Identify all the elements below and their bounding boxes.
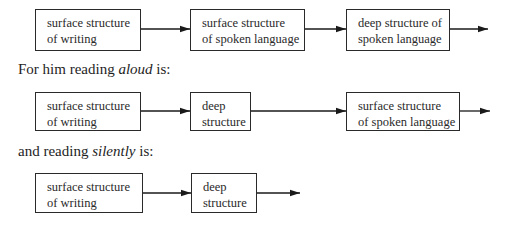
- box-line: deep structure of: [358, 15, 449, 31]
- box-surface-structure-writing: surface structure of writing: [35, 9, 141, 51]
- caption-text: is:: [135, 143, 153, 159]
- box-surface-structure-writing: surface structure of writing: [35, 92, 141, 131]
- box-line: surface structure: [47, 15, 140, 31]
- box-line: of writing: [47, 195, 142, 211]
- box-line: deep: [202, 98, 250, 114]
- box-surface-structure-writing: surface structure of writing: [35, 173, 143, 213]
- box-line: surface structure: [47, 179, 142, 195]
- box-surface-structure-spoken: surface structure of spoken language: [346, 92, 460, 131]
- box-line: deep: [203, 179, 256, 195]
- caption-emphasis: aloud: [118, 61, 152, 77]
- box-line: surface structure: [358, 98, 459, 114]
- box-deep-structure: deep structure: [191, 173, 257, 213]
- box-deep-structure: deep structure: [190, 92, 251, 131]
- box-line: of writing: [47, 31, 140, 47]
- caption-text: and reading: [18, 143, 92, 159]
- box-line: structure: [202, 114, 250, 130]
- caption-text: For him reading: [18, 61, 118, 77]
- box-line: surface structure: [47, 98, 140, 114]
- box-line: spoken language: [358, 31, 449, 47]
- caption-reading-aloud: For him reading aloud is:: [18, 61, 171, 78]
- box-line: of spoken language: [358, 114, 459, 130]
- box-line: of spoken language: [202, 31, 304, 47]
- box-line: surface structure: [202, 15, 304, 31]
- box-deep-structure-spoken: deep structure of spoken language: [346, 9, 450, 51]
- caption-reading-silently: and reading silently is:: [18, 143, 153, 160]
- box-line: structure: [203, 195, 256, 211]
- caption-emphasis: silently: [92, 143, 135, 159]
- caption-text: is:: [153, 61, 171, 77]
- box-line: of writing: [47, 114, 140, 130]
- box-surface-structure-spoken: surface structure of spoken language: [190, 9, 305, 51]
